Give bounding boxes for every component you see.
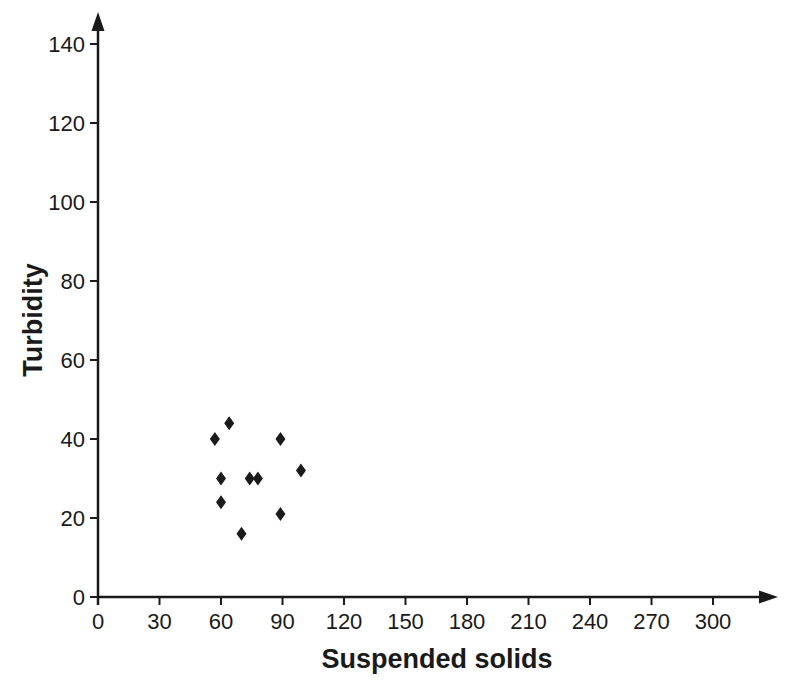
- y-axis-title: Turbidity: [18, 263, 48, 376]
- data-point-marker: [275, 432, 285, 446]
- x-tick-label: 120: [326, 609, 363, 634]
- scatter-plot-figure: 0306090120150180210240270300 Suspended s…: [0, 0, 801, 688]
- x-tick-label: 30: [147, 609, 171, 634]
- data-point-marker: [210, 432, 220, 446]
- x-axis-title: Suspended solids: [321, 644, 552, 674]
- x-tick-labels: 0306090120150180210240270300: [92, 609, 731, 634]
- y-tick-label: 40: [61, 427, 85, 452]
- x-tick-label: 210: [510, 609, 547, 634]
- x-tick-label: 90: [270, 609, 294, 634]
- data-point-marker: [237, 527, 247, 541]
- y-tick-label: 20: [61, 506, 85, 531]
- x-tick-label: 60: [209, 609, 233, 634]
- scatter-plot: 0306090120150180210240270300 Suspended s…: [0, 0, 801, 688]
- x-tick-label: 180: [449, 609, 486, 634]
- data-point-marker: [216, 495, 226, 509]
- y-tick-label: 0: [73, 585, 85, 610]
- y-tick-label: 120: [48, 111, 85, 136]
- y-axis: 020406080100120140 Turbidity: [18, 12, 105, 610]
- data-point-marker: [216, 472, 226, 486]
- data-point-marker: [224, 416, 234, 430]
- x-tick-label: 300: [695, 609, 732, 634]
- y-axis-arrowhead-icon: [92, 12, 105, 31]
- y-tick-label: 80: [61, 269, 85, 294]
- x-tick-label: 0: [92, 609, 104, 634]
- y-tick-labels: 020406080100120140: [48, 32, 85, 610]
- y-tick-label: 140: [48, 32, 85, 57]
- x-tick-label: 150: [387, 609, 424, 634]
- data-point-marker: [296, 464, 306, 478]
- data-point-marker: [253, 472, 263, 486]
- x-tick-label: 240: [572, 609, 609, 634]
- x-axis: 0306090120150180210240270300 Suspended s…: [92, 591, 778, 675]
- data-points: [210, 416, 306, 541]
- y-tick-label: 60: [61, 348, 85, 373]
- y-tick-label: 100: [48, 190, 85, 215]
- x-axis-arrowhead-icon: [759, 591, 778, 604]
- data-point-marker: [275, 507, 285, 521]
- x-tick-label: 270: [633, 609, 670, 634]
